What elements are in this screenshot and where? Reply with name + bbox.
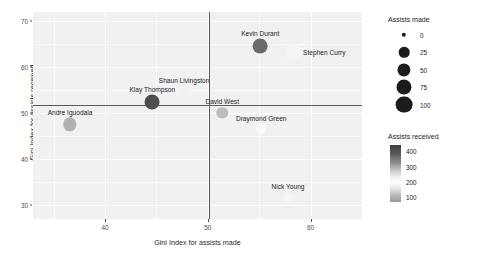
legend-key-label: 0 xyxy=(420,31,424,38)
y-tick-mark xyxy=(30,21,33,22)
y-tick-label: 40 xyxy=(2,156,28,163)
gridline-horizontal xyxy=(33,205,362,206)
colorbar-tick-label: 100 xyxy=(406,194,417,201)
gridline-horizontal xyxy=(33,159,362,160)
reference-line-vertical xyxy=(209,12,210,219)
colorbar xyxy=(390,145,401,202)
gridline-vertical-minor xyxy=(156,12,157,219)
gridline-vertical xyxy=(311,12,312,219)
legend-key-label: 75 xyxy=(420,84,427,91)
legend-key-circle xyxy=(397,63,410,76)
x-tick-mark xyxy=(311,219,312,222)
gridline-horizontal xyxy=(33,21,362,22)
data-point xyxy=(256,124,266,134)
colorbar-tick-label: 300 xyxy=(406,163,417,170)
x-tick-label: 40 xyxy=(85,224,125,231)
legend-key-label: 100 xyxy=(420,101,431,108)
x-tick-label: 60 xyxy=(291,224,331,231)
legend-assists-received-title: Assists received xyxy=(388,133,439,140)
data-point xyxy=(216,107,228,119)
legend-key-row: 100 xyxy=(388,96,458,113)
gridline-horizontal xyxy=(33,67,362,68)
legend-assists-made-keys: 0255075100 xyxy=(388,26,458,114)
x-tick-mark xyxy=(105,219,106,222)
data-point xyxy=(286,44,303,61)
colorbar-tick-label: 400 xyxy=(406,148,417,155)
y-tick-label: 60 xyxy=(2,64,28,71)
y-tick-label: 50 xyxy=(2,110,28,117)
reference-line-horizontal xyxy=(33,105,362,106)
legend-key-row: 50 xyxy=(388,61,458,78)
legend-key-circle xyxy=(396,96,413,113)
legend-key-circle xyxy=(402,32,406,36)
data-point-label: Kevin Durant xyxy=(241,29,279,36)
data-point-label: Nick Young xyxy=(272,183,305,190)
legend-key-circle xyxy=(399,47,410,58)
x-axis-title: Gini Index for assists made xyxy=(33,238,362,247)
data-point-label: Stephen Curry xyxy=(303,49,346,56)
x-tick-mark xyxy=(208,219,209,222)
data-point-label: Draymond Green xyxy=(236,115,287,122)
y-tick-label: 30 xyxy=(2,202,28,209)
gridline-vertical xyxy=(105,12,106,219)
data-point-label: Klay Thompson xyxy=(129,86,175,93)
legend-key-label: 25 xyxy=(420,49,427,56)
y-tick-mark xyxy=(30,205,33,206)
data-point-label: Andre Iguodala xyxy=(48,109,93,116)
data-point xyxy=(178,86,190,98)
x-tick-label: 50 xyxy=(188,224,228,231)
gridline-horizontal-minor xyxy=(33,44,362,45)
colorbar-tick-label: 200 xyxy=(406,179,417,186)
data-point-label: Shaun Livingston xyxy=(159,77,210,84)
y-tick-mark xyxy=(30,67,33,68)
data-point xyxy=(145,94,160,109)
legend-key-row: 75 xyxy=(388,79,458,96)
legend-key-row: 25 xyxy=(388,44,458,61)
gridline-horizontal-minor xyxy=(33,136,362,137)
gridline-horizontal-minor xyxy=(33,90,362,91)
legend-key-label: 50 xyxy=(420,66,427,73)
chart-figure: Gini Index for assists received 30405060… xyxy=(0,0,479,255)
data-point-label: David West xyxy=(205,98,239,105)
y-tick-mark xyxy=(30,113,33,114)
plot-panel: Andre IguodalaKlay ThompsonShaun Livings… xyxy=(33,12,362,219)
data-point xyxy=(253,39,268,54)
data-point xyxy=(63,117,76,130)
legend-key-circle xyxy=(396,79,411,94)
data-point xyxy=(284,193,293,202)
gridline-horizontal-minor xyxy=(33,182,362,183)
y-tick-label: 70 xyxy=(2,18,28,25)
legend-assists-made-title: Assists made xyxy=(388,16,430,23)
legend-key-row: 0 xyxy=(388,26,458,43)
y-tick-mark xyxy=(30,159,33,160)
